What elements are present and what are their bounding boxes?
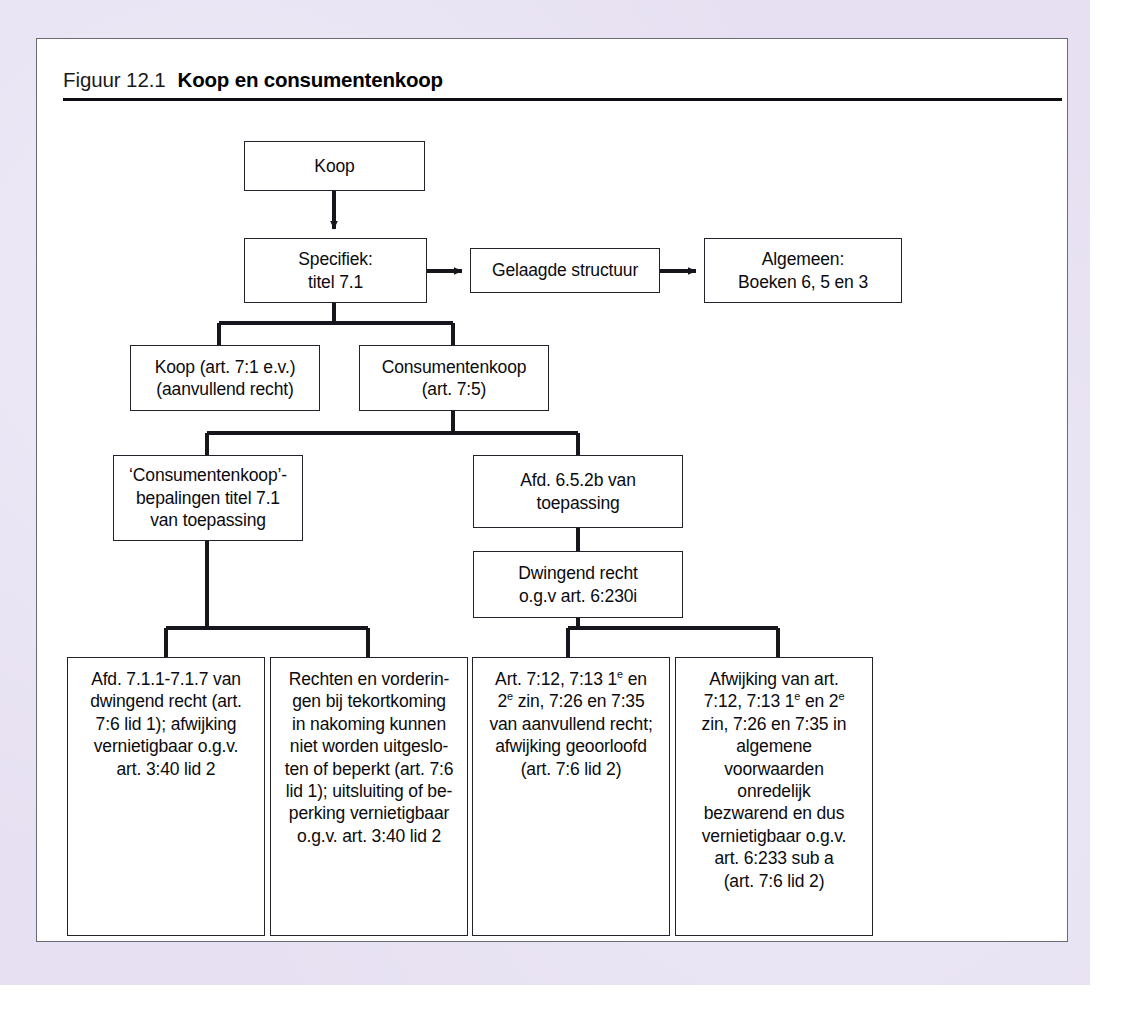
node-koop-art-label: Koop (art. 7:1 e.v.) (aanvullend recht) xyxy=(135,356,315,401)
node-consumentenkoop-label: Consumentenkoop (art. 7:5) xyxy=(364,356,544,401)
node-leaf1-label: Afd. 7.1.1-7.1.7 van dwingend recht (art… xyxy=(72,668,260,780)
node-koop-label: Koop xyxy=(249,155,420,177)
node-specifiek[interactable]: Specifiek: titel 7.1 xyxy=(244,238,427,303)
node-dwingend-recht-label: Dwingend recht o.g.v art. 6:230i xyxy=(478,562,678,607)
node-consumentenkoop[interactable]: Consumentenkoop (art. 7:5) xyxy=(359,345,549,411)
node-dwingend-recht[interactable]: Dwingend recht o.g.v art. 6:230i xyxy=(473,551,683,618)
node-koop-art-71[interactable]: Koop (art. 7:1 e.v.) (aanvullend recht) xyxy=(130,345,320,411)
node-ck-bepalingen-label: ‘Consumentenkoop’- bepalingen titel 7.1 … xyxy=(118,464,298,531)
node-algemeen-label: Algemeen: Boeken 6, 5 en 3 xyxy=(709,248,897,293)
node-koop[interactable]: Koop xyxy=(244,141,425,191)
node-algemeen[interactable]: Algemeen: Boeken 6, 5 en 3 xyxy=(704,238,902,303)
node-leaf4-label: Afwijking van art. 7:12, 7:13 1e en 2e z… xyxy=(680,668,868,892)
node-leaf-art-712-aanvullend[interactable]: Art. 7:12, 7:13 1e en 2e zin, 7:26 en 7:… xyxy=(472,657,670,936)
flow-diagram: Koop Specifiek: titel 7.1 Gelaagde struc… xyxy=(0,0,1137,1011)
node-afd-652b[interactable]: Afd. 6.5.2b van toepassing xyxy=(473,455,683,528)
node-leaf-afwijking-algemene-voorwaarden[interactable]: Afwijking van art. 7:12, 7:13 1e en 2e z… xyxy=(675,657,873,936)
node-leaf3-label: Art. 7:12, 7:13 1e en 2e zin, 7:26 en 7:… xyxy=(477,668,665,780)
node-leaf-rechten-vorderingen[interactable]: Rechten en vorderin- gen bij tekortkomin… xyxy=(270,657,468,936)
node-leaf2-label: Rechten en vorderin- gen bij tekortkomin… xyxy=(275,668,463,847)
node-ck-bepalingen[interactable]: ‘Consumentenkoop’- bepalingen titel 7.1 … xyxy=(113,455,303,541)
node-gelaagde-structuur[interactable]: Gelaagde structuur xyxy=(470,248,660,293)
node-specifiek-label: Specifiek: titel 7.1 xyxy=(249,248,422,293)
node-gelaagde-label: Gelaagde structuur xyxy=(475,259,655,281)
node-leaf-afd-711-717[interactable]: Afd. 7.1.1-7.1.7 van dwingend recht (art… xyxy=(67,657,265,936)
node-afd-652b-label: Afd. 6.5.2b van toepassing xyxy=(478,469,678,514)
